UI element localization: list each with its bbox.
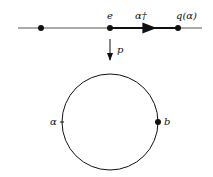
- point-b: [155, 119, 161, 125]
- point-q-alpha: [175, 25, 181, 31]
- label-q-alpha: q(α): [176, 10, 197, 21]
- point-left: [38, 25, 44, 31]
- point-e: [107, 25, 113, 31]
- label-e: e: [107, 10, 113, 21]
- label-alpha-dagger: α†: [135, 10, 148, 21]
- base-circle: [62, 74, 158, 170]
- label-alpha: α: [50, 116, 57, 127]
- label-b: b: [164, 116, 170, 127]
- label-p: p: [117, 44, 124, 55]
- covering-diagram: e α† q(α) p α b: [0, 0, 213, 177]
